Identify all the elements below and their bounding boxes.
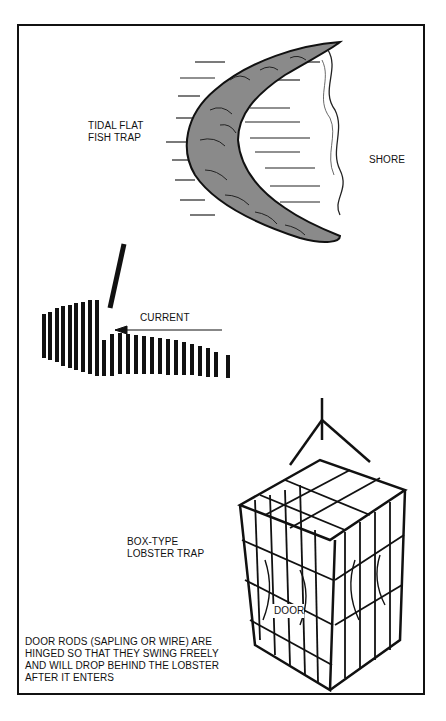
box-type-label-2: LOBSTER TRAP [127,548,204,560]
note-line-3: AND WILL DROP BEHIND THE LOBSTER [25,660,219,672]
tidal-flat-label-2: FISH TRAP [88,132,141,144]
box-type-label-1: BOX-TYPE [127,536,178,548]
weir-fence-drawing [44,244,228,378]
fish-trap-drawing [166,42,343,242]
tidal-flat-label-1: TIDAL FLAT [88,120,143,132]
shore-label: SHORE [369,154,405,166]
lobster-trap-drawing [240,398,405,690]
note-line-4: AFTER IT ENTERS [25,672,114,684]
note-line-2: HINGED SO THAT THEY SWING FREELY [25,648,219,660]
illustrations [0,0,446,721]
note-line-1: DOOR RODS (SAPLING OR WIRE) ARE [25,636,212,648]
door-label: DOOR [274,605,304,617]
current-label: CURRENT [140,312,190,324]
